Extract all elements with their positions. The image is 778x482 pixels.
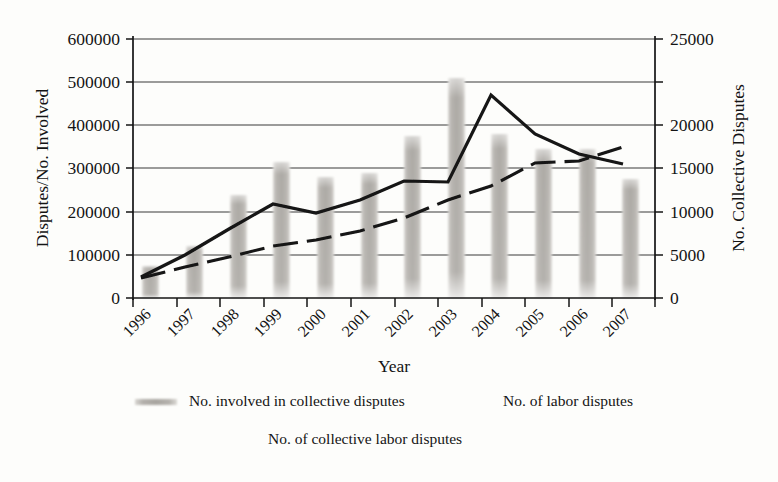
- legend-label: No. of labor disputes: [503, 392, 633, 409]
- left-axis-tick-labels: 0 100000 200000 300000 400000 500000 600…: [68, 29, 121, 308]
- ytick-label: 600000: [68, 29, 121, 49]
- bar-2003: [448, 78, 465, 298]
- xtick-label: 2005: [512, 305, 547, 340]
- x-axis-tick-labels: 1996 1997 1998 1999 2000 2001 2002 2003 …: [119, 305, 634, 340]
- xtick-label: 2006: [556, 305, 591, 340]
- legend-label: No. of collective labor disputes: [268, 430, 462, 447]
- xtick-label: 1999: [250, 305, 285, 340]
- legend-item-solid: No. of collective labor disputes: [196, 430, 462, 447]
- bar-2004: [491, 134, 508, 298]
- y2tick-label: 10000: [670, 202, 714, 222]
- x-axis-ticks: [133, 298, 655, 307]
- y2tick-label: 0: [670, 288, 679, 308]
- y-axis-title: Disputes/No. Involved: [32, 89, 52, 248]
- legend-item-dashed: No. of labor disputes: [448, 392, 633, 409]
- xtick-label: 1998: [207, 305, 242, 340]
- right-axis-ticks: [655, 39, 663, 298]
- xtick-label: 2001: [338, 305, 373, 340]
- xtick-label: 2004: [468, 305, 503, 340]
- xtick-label: 1997: [163, 305, 198, 340]
- chart-svg: 0 100000 200000 300000 400000 500000 600…: [0, 0, 778, 482]
- xtick-label: 2002: [381, 305, 416, 340]
- y2-axis-title: No. Collective Disputes: [728, 84, 748, 252]
- gridlines: [133, 39, 655, 255]
- y2tick-label: 25000: [670, 29, 714, 49]
- bar-1998: [230, 195, 247, 298]
- bar-swatch-icon: [135, 399, 177, 405]
- ytick-label: 200000: [68, 202, 121, 222]
- xtick-label: 2003: [425, 305, 460, 340]
- bar-1999: [273, 162, 290, 298]
- legend-item-bar: No. involved in collective disputes: [135, 392, 405, 409]
- xtick-label: 2007: [599, 305, 634, 340]
- left-axis-ticks: [126, 39, 133, 298]
- bar-2006: [579, 149, 596, 298]
- ytick-label: 300000: [68, 158, 121, 178]
- ytick-label: 100000: [68, 245, 121, 265]
- bar-2007: [622, 179, 639, 298]
- y2tick-label: 5000: [670, 245, 705, 265]
- ytick-label: 500000: [68, 72, 121, 92]
- right-axis-tick-labels: 0 5000 10000 15000 20000 25000: [670, 29, 714, 308]
- x-axis-title: Year: [378, 356, 410, 376]
- ytick-label: 0: [111, 288, 120, 308]
- chart-figure: 0 100000 200000 300000 400000 500000 600…: [0, 0, 778, 482]
- xtick-label: 1996: [119, 305, 154, 340]
- xtick-label: 2000: [294, 305, 329, 340]
- legend-label: No. involved in collective disputes: [189, 392, 405, 409]
- bar-2005: [535, 149, 552, 298]
- ytick-label: 400000: [68, 115, 121, 135]
- chart-legend: No. involved in collective disputes No. …: [135, 392, 633, 447]
- y2tick-label: 15000: [670, 158, 714, 178]
- y2tick-label: 20000: [670, 115, 714, 135]
